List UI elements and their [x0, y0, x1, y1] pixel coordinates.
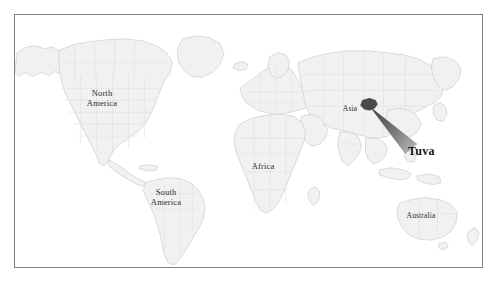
world-map-canvas — [15, 15, 482, 267]
tuva-callout-label: Tuva — [408, 144, 435, 159]
map-frame: North America South America Africa Asia … — [14, 14, 483, 268]
world-map-figure: North America South America Africa Asia … — [0, 0, 497, 284]
